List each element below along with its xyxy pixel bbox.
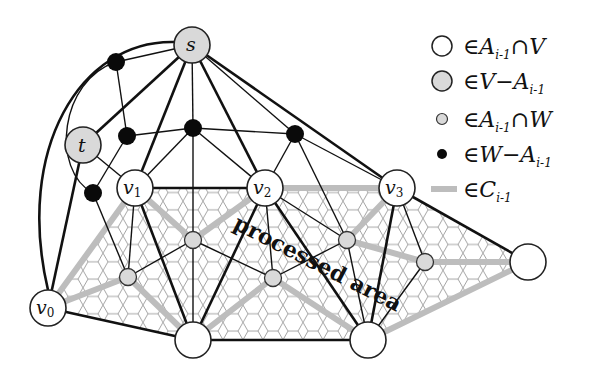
gray-circle-icon — [432, 71, 452, 91]
node-t: t — [65, 127, 101, 163]
svg-text:∈V−Ai-1: ∈V−Ai-1 — [463, 69, 545, 97]
legend: ∈Ai-1∩V ∈V−Ai-1 ∈Ai-1∩W ∈W−Ai-1 ∈Ci-1 — [431, 34, 554, 205]
legend-item-a-cap-v: ∈Ai-1∩V — [432, 34, 547, 62]
node-v3: v3 — [379, 170, 415, 206]
svg-text:∈Ci-1: ∈Ci-1 — [463, 177, 512, 205]
black-dot-icon — [437, 149, 447, 159]
svg-text:∈Ai-1∩W: ∈Ai-1∩W — [463, 107, 554, 135]
node-s: s — [174, 27, 210, 63]
legend-item-v-minus-a: ∈V−Ai-1 — [432, 69, 545, 97]
legend-item-a-cap-w: ∈Ai-1∩W — [437, 107, 555, 135]
small-gray-circle-icon — [437, 114, 448, 125]
svg-text:t: t — [78, 134, 86, 156]
node-v1: v1 — [117, 170, 153, 206]
svg-text:s: s — [186, 33, 196, 55]
node-right — [510, 244, 546, 280]
node-v0: v0 — [30, 290, 66, 326]
graph-diagram: processed area s t v1 v2 v3 v0 — [0, 0, 598, 377]
svg-text:∈W−Ai-1: ∈W−Ai-1 — [463, 142, 552, 170]
white-circle-icon — [432, 36, 452, 56]
node-v2: v2 — [247, 170, 283, 206]
node-bottom-right — [350, 322, 386, 358]
legend-item-w-minus-a: ∈W−Ai-1 — [437, 142, 552, 170]
gray-bar-icon — [431, 186, 457, 192]
legend-item-cycle: ∈Ci-1 — [431, 177, 512, 205]
node-bottom-left — [175, 322, 211, 358]
svg-text:∈Ai-1∩V: ∈Ai-1∩V — [463, 34, 547, 62]
